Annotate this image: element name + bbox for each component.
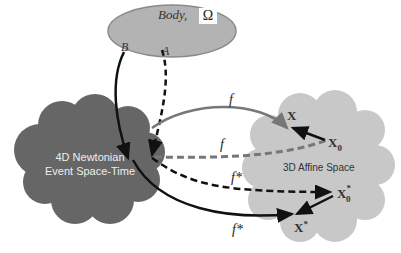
f-star-bottom-label: f* (232, 222, 243, 238)
x0-star-superscript: * (346, 183, 351, 193)
x0-star-base: X (337, 186, 346, 201)
x0-subscript: 0 (337, 143, 342, 153)
diagram-graphics (0, 0, 401, 253)
f-dashed-label: f (220, 137, 224, 153)
event-space-line1: 4D Newtonian (40, 150, 140, 164)
x0-star-subscript: 0 (346, 194, 351, 204)
x0-label: X0 (328, 135, 342, 153)
point-b-label: B (121, 40, 128, 55)
x0-star-label: X*0 (337, 185, 350, 204)
body-label: Body, (158, 7, 187, 23)
point-a-label: A (162, 44, 169, 59)
x-star-label: X* (294, 219, 308, 236)
diagram-canvas: Body, Ω B A 4D Newtonian Event Space-Tim… (0, 0, 401, 253)
f-star-dashed-label: f* (231, 170, 242, 186)
x-star-superscript: * (303, 219, 308, 229)
f-top-label: f (229, 92, 233, 108)
x-star-base: X (294, 220, 303, 235)
x-label: X (287, 108, 296, 124)
omega-symbol: Ω (199, 8, 217, 24)
event-space-label: 4D Newtonian Event Space-Time (40, 150, 140, 178)
affine-space-label: 3D Affine Space (283, 162, 355, 173)
event-space-line2: Event Space-Time (40, 164, 140, 178)
x0-base: X (328, 135, 337, 150)
